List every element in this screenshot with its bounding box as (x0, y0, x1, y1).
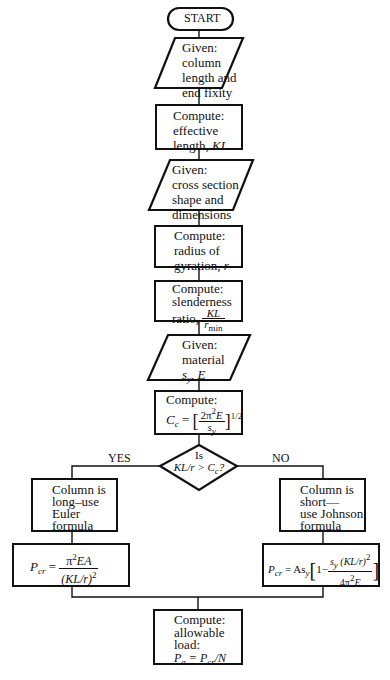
given-length-text: Given: column length and end fixity (182, 40, 237, 100)
compute-cc-box: Compute: Cc = [2π2Esy]1/2 (154, 390, 243, 435)
compute-slenderness-box: Compute: slenderness ratio, KLrmin (154, 280, 243, 322)
given-section-text: Given: cross section shape and dimension… (172, 162, 239, 222)
euler-formula-box: Pcr = π2EA(KL/r)2 (12, 543, 130, 587)
johnson-formula-box: Pcr = Asy[1−sy (KL/r)24π2E] (262, 543, 380, 587)
no-label: NO (272, 451, 289, 466)
yes-label: YES (108, 451, 131, 466)
johnson-decision-box: Column is short— use Johnson formula (279, 478, 366, 532)
compute-radius-box: Compute: radius of gyration, r (154, 225, 243, 268)
start-label: START (184, 11, 220, 26)
decision-text: Is KL/r > Cc? (168, 449, 230, 477)
given-material-text: Given: material sy, E (182, 337, 225, 387)
euler-decision-box: Column is long–use Euler formula (31, 478, 118, 532)
compute-effective-length-box: Compute: effective length, KL (155, 104, 243, 150)
compute-allowable-load-box: Compute: allowable load: Pa = Pcr/N (153, 609, 243, 665)
